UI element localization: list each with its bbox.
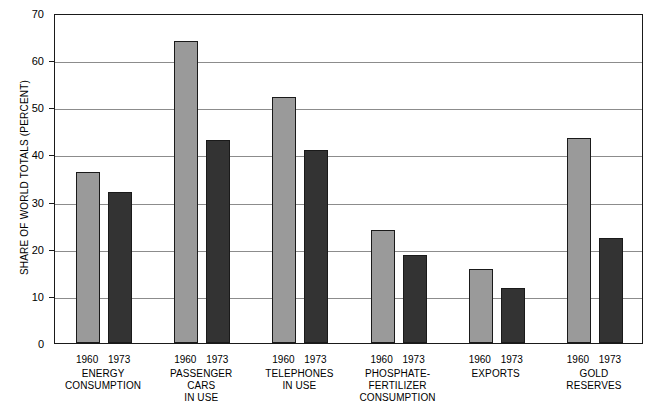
x-axis-year-label: 1973 [491, 354, 533, 366]
bar [108, 192, 132, 343]
y-axis-tick-mark [49, 297, 54, 298]
y-axis-tick-mark [49, 61, 54, 62]
x-axis-group-label: TELEPHONES IN USE [250, 368, 348, 392]
x-axis-year-label: 1973 [196, 354, 238, 366]
gridline [55, 204, 642, 205]
bar [174, 41, 198, 343]
gridline [55, 109, 642, 110]
bar [206, 140, 230, 343]
x-axis-group-label: PHOSPHATE- FERTILIZER CONSUMPTION [349, 368, 447, 404]
y-axis-tick-label: 20 [18, 245, 44, 256]
x-axis-year-label: 1973 [98, 354, 140, 366]
gridline [55, 62, 642, 63]
y-axis-tick-mark [49, 203, 54, 204]
bar [76, 172, 100, 343]
bar [403, 255, 427, 343]
bar-chart: SHARE OF WORLD TOTALS (PERCENT) 01020304… [0, 0, 653, 413]
gridline [55, 156, 642, 157]
y-axis-tick-mark [49, 250, 54, 251]
plot-area [54, 14, 643, 344]
bar [567, 138, 591, 343]
x-axis-year-label: 1973 [393, 354, 435, 366]
bar [599, 238, 623, 343]
x-axis-year-label: 1973 [294, 354, 336, 366]
bar [304, 150, 328, 343]
gridline [55, 298, 642, 299]
y-axis-tick-label: 40 [18, 150, 44, 161]
bar [469, 269, 493, 343]
x-axis-group-label: EXPORTS [447, 368, 545, 380]
x-axis-group-label: ENERGY CONSUMPTION [54, 368, 152, 392]
x-axis-group-label: GOLD RESERVES [545, 368, 643, 392]
y-axis-tick-label: 50 [18, 103, 44, 114]
y-axis-tick-label: 60 [18, 56, 44, 67]
y-axis-tick-label: 10 [18, 292, 44, 303]
y-axis-tick-mark [49, 155, 54, 156]
y-axis-tick-label: 0 [18, 339, 44, 350]
y-axis-tick-label: 30 [18, 198, 44, 209]
x-axis-group-label: PASSENGER CARS IN USE [152, 368, 250, 404]
y-axis-tick-mark [49, 108, 54, 109]
bar [272, 97, 296, 343]
x-axis-year-label: 1973 [589, 354, 631, 366]
y-axis-tick-label: 70 [18, 9, 44, 20]
gridline [55, 251, 642, 252]
bar [501, 288, 525, 343]
bar [371, 230, 395, 343]
